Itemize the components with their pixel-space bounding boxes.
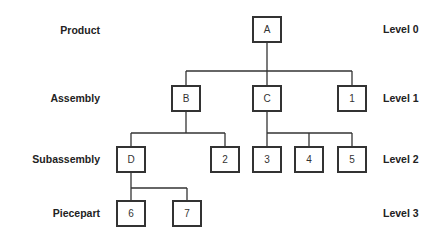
level-label-1: Level 1 [383,92,419,104]
node-6: 6 [116,200,146,227]
row-label-subassembly: Subassembly [0,153,100,165]
level-label-3: Level 3 [383,207,419,219]
node-c: C [252,85,282,112]
node-2: 2 [210,146,240,173]
row-label-product: Product [0,24,100,36]
row-label-piecepart: Piecepart [0,207,100,219]
node-4: 4 [294,146,324,173]
node-d: D [116,146,146,173]
row-label-assembly: Assembly [0,92,100,104]
node-1: 1 [337,85,367,112]
level-label-2: Level 2 [383,153,419,165]
node-b: B [171,85,201,112]
node-a: A [252,16,282,43]
product-structure-diagram: Product Assembly Subassembly Piecepart L… [0,0,443,243]
level-label-0: Level 0 [383,23,419,35]
node-3: 3 [252,146,282,173]
node-5: 5 [337,146,367,173]
node-7: 7 [172,200,202,227]
